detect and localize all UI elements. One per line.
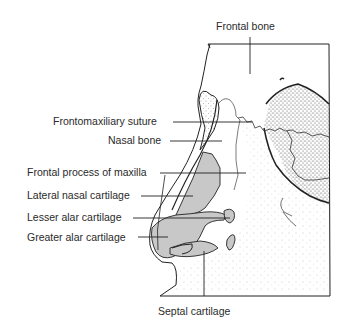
label-frontomaxillary-suture: Frontomaxiliary suture	[53, 116, 157, 127]
label-nasal-bone: Nasal bone	[108, 135, 161, 146]
nasal-anatomy-diagram: Frontal bone Frontomaxiliary suture Nasa…	[0, 0, 349, 332]
lesser-alar-cartilage	[224, 209, 235, 223]
label-lesser-alar-cartilage: Lesser alar cartilage	[27, 212, 122, 223]
label-frontal-process-of-maxilla: Frontal process of maxilla	[27, 167, 147, 178]
frontal-process-outline	[218, 99, 240, 190]
lateral-nasal-cartilage	[176, 152, 220, 217]
label-greater-alar-cartilage: Greater alar cartilage	[27, 232, 126, 243]
label-septal-cartilage: Septal cartilage	[158, 306, 230, 317]
label-frontal-bone: Frontal bone	[216, 21, 275, 32]
foramen-mark	[280, 78, 284, 80]
label-lateral-nasal-cartilage: Lateral nasal cartilage	[27, 190, 130, 201]
